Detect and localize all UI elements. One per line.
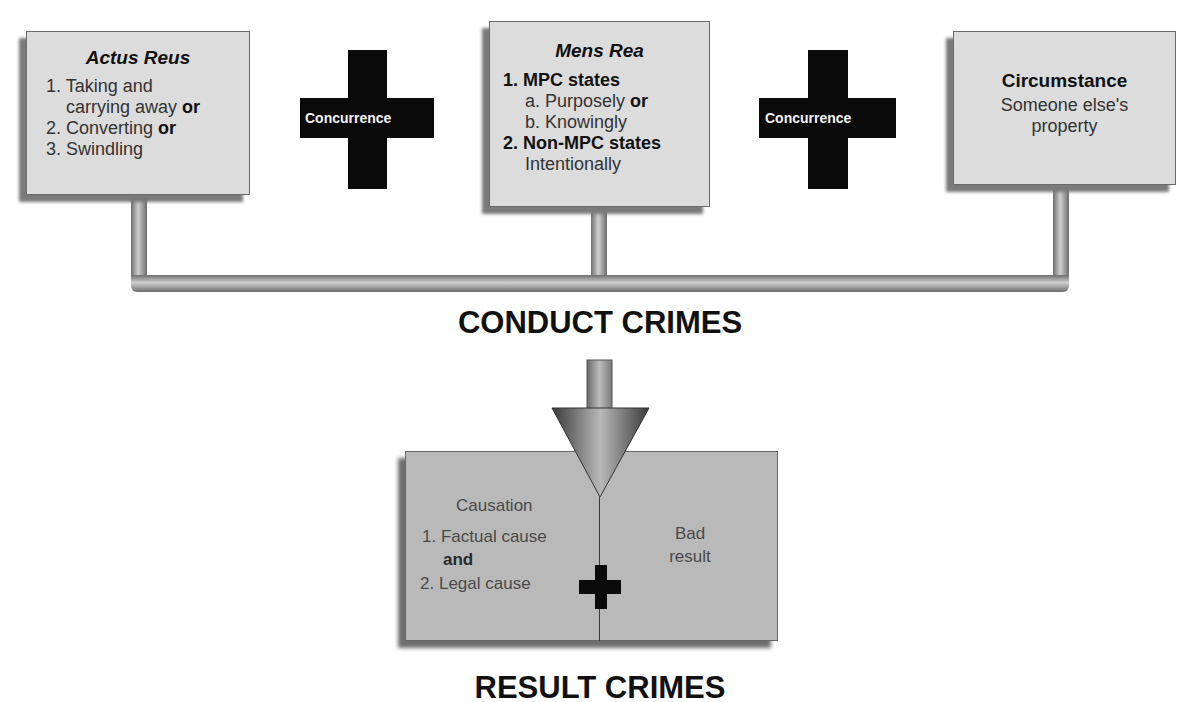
mens-rea-line-purposely: a. Purposely or xyxy=(503,91,661,112)
circumstance-line-2: property xyxy=(954,116,1175,137)
mens-rea-title: Mens Rea xyxy=(490,40,709,62)
result-crimes-heading: RESULT CRIMES xyxy=(390,670,810,702)
circumstance-box: Circumstance Someone else's property xyxy=(953,31,1176,185)
actus-reus-item-2: 2. Converting or xyxy=(46,118,200,139)
actus-reus-item-3: 3. Swindling xyxy=(46,139,200,160)
causation-and: and xyxy=(443,549,473,570)
pipe-mens-rea xyxy=(591,207,607,285)
actus-reus-item-1: 1. Taking and xyxy=(46,76,200,97)
mens-rea-section-2-heading: 2. Non-MPC states xyxy=(503,133,661,154)
concurrence-label-1: Concurrence xyxy=(305,110,391,126)
pipe-circumstance xyxy=(1053,185,1069,285)
concurrence-label-2: Concurrence xyxy=(765,110,851,126)
mens-rea-line-intentionally: Intentionally xyxy=(503,154,661,175)
bad-result-line-2: result xyxy=(660,546,720,567)
plus-horizontal xyxy=(579,580,621,594)
bad-result-line-1: Bad xyxy=(660,523,720,544)
mens-rea-box: Mens Rea 1. MPC states a. Purposely or b… xyxy=(489,21,710,207)
actus-reus-title: Actus Reus xyxy=(27,47,249,69)
conduct-crimes-heading: CONDUCT CRIMES xyxy=(400,305,800,341)
circumstance-title: Circumstance xyxy=(954,70,1175,92)
mens-rea-section-1-heading: 1. MPC states xyxy=(503,70,661,91)
causation-item-1: 1. Factual cause xyxy=(422,526,547,547)
causation-title: Causation xyxy=(456,495,533,516)
actus-reus-item-1-cont: carrying away or xyxy=(46,97,200,118)
pipe-horizontal xyxy=(131,275,1069,292)
actus-reus-box: Actus Reus 1. Taking and carrying away o… xyxy=(26,31,250,195)
causation-item-2: 2. Legal cause xyxy=(420,573,531,594)
pipe-actus-reus xyxy=(131,195,147,285)
circumstance-line-1: Someone else's xyxy=(954,95,1175,116)
mens-rea-line-knowingly: b. Knowingly xyxy=(503,112,661,133)
down-arrow-icon xyxy=(550,358,652,500)
